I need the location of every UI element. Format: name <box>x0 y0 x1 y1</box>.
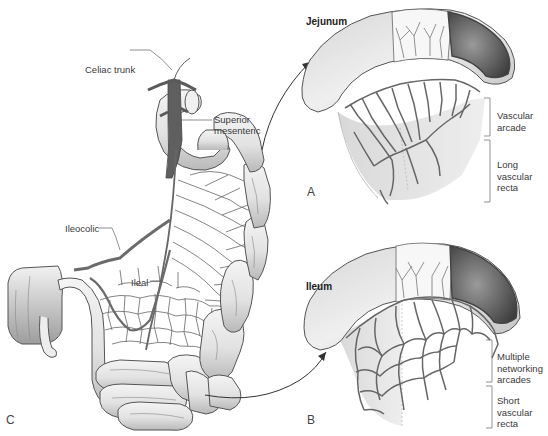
label-celiac-trunk: Celiac trunk <box>85 64 135 75</box>
panel-b-ileum <box>304 243 520 428</box>
label-ileocolic: Ileocolic <box>65 223 99 234</box>
bracket-long-vascular-recta <box>484 140 490 202</box>
label-long-vascular-recta: Long vascular recta <box>497 159 532 194</box>
panel-letter-b: B <box>307 413 315 427</box>
label-ileal: Ileal <box>131 277 148 288</box>
label-superior-mesenteric-line1: Superior <box>214 114 250 125</box>
label-vascular-arcade: Vascular arcade <box>497 110 533 133</box>
panel-letter-a: A <box>307 185 315 199</box>
panel-a-jejunum <box>302 9 515 204</box>
panel-letter-c: C <box>6 413 15 427</box>
intestinal-blood-supply-illustration <box>0 0 548 436</box>
anatomy-figure: Celiac trunk Superior mesenteric Ileocol… <box>0 0 548 436</box>
label-short-vascular-recta: Short vascular recta <box>497 395 532 430</box>
label-multiple-networking-arcades: Multiple networking arcades <box>497 351 543 386</box>
bracket-multiple-networking-arcades <box>486 340 492 382</box>
arrow-to-jejunum <box>262 62 310 150</box>
panel-b-title: Ileum <box>306 281 332 292</box>
panel-a-title: Jejunum <box>306 16 347 27</box>
panel-c-overview <box>8 50 326 430</box>
bracket-short-vascular-recta <box>486 386 492 428</box>
label-superior-mesenteric-line2: mesenteric <box>214 125 260 136</box>
cecum <box>8 266 63 344</box>
bracket-vascular-arcade <box>484 98 490 136</box>
